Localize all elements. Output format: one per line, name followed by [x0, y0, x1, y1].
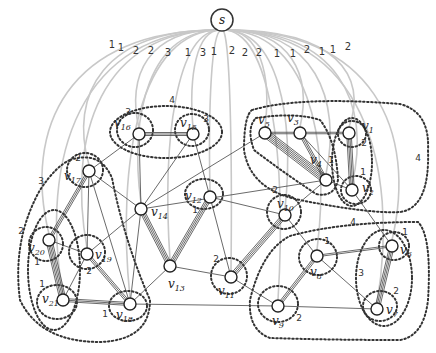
graph-diagram: 11223131222112112 4332141232121112241132… [0, 0, 436, 353]
node-v9[interactable]: v9 [272, 300, 284, 330]
node-circle[interactable] [343, 127, 355, 139]
edge-v1-v2 [347, 133, 350, 190]
node-label: v17 [64, 169, 82, 185]
node-circle[interactable] [320, 174, 332, 186]
node-label: v21 [42, 292, 59, 308]
node-v6[interactable]: v6 [386, 240, 412, 259]
node-circle[interactable] [311, 250, 323, 262]
node-circle[interactable] [81, 248, 93, 260]
arc-weight: 1 [319, 46, 325, 57]
node-v13[interactable]: v13 [164, 260, 185, 293]
region-weight: 2 [86, 266, 92, 276]
edge-v13-v12 [169, 197, 209, 266]
node-label: v13 [168, 277, 185, 293]
graph-edges [46, 130, 394, 309]
edge-v18-v9 [130, 304, 278, 306]
node-label: v3 [287, 111, 299, 127]
edge-v12-v10 [210, 197, 285, 215]
node-v12[interactable]: v12 [185, 189, 216, 205]
arc-weight: 2 [242, 47, 248, 58]
node-label: v6 [400, 243, 412, 259]
arc-weight: 2 [133, 45, 139, 56]
node-circle[interactable] [43, 234, 55, 246]
node-label: v11 [218, 284, 235, 300]
arc-weight: 1 [185, 47, 191, 58]
region-weight: 3 [38, 176, 44, 186]
edge-v10-v11 [232, 215, 286, 277]
region-weight: 4 [415, 153, 421, 163]
edge-v19-v21 [63, 254, 87, 300]
node-label: v12 [185, 189, 202, 205]
edge-v17-v18 [89, 171, 130, 304]
region-weight: 2 [213, 254, 219, 264]
region-weight: 1 [39, 279, 45, 289]
region-weight: 3 [203, 114, 209, 124]
arc-weight: 1 [274, 48, 280, 59]
source-node[interactable]: s [211, 9, 233, 31]
region-weight: 2 [361, 138, 367, 148]
arc-weight: 1 [118, 42, 124, 53]
arc-weight: 2 [256, 47, 262, 58]
arc-weight: 1 [211, 46, 217, 57]
edge-v14-v4 [141, 180, 326, 209]
arc-weight: 2 [304, 44, 310, 55]
region-weight: 1 [402, 227, 408, 237]
node-label: v19 [95, 248, 112, 264]
region-weight: 1 [328, 155, 334, 165]
node-v8[interactable]: v8 [310, 250, 323, 281]
edge-v10-v11 [229, 214, 283, 276]
node-v19[interactable]: v19 [81, 248, 112, 264]
node-circle[interactable] [164, 260, 176, 272]
edge-v13-v12 [168, 196, 208, 265]
region-weight: 3 [125, 107, 131, 117]
region-weight: 4 [169, 95, 175, 105]
edge-v6-v7 [379, 247, 394, 310]
node-circle[interactable] [204, 191, 216, 203]
arc-weight: 2 [229, 45, 235, 56]
edge-v13-v11 [170, 266, 231, 277]
edge-v17-v19 [87, 171, 89, 254]
edge-v2-v6 [352, 190, 392, 246]
edge-v1-v2 [350, 133, 353, 190]
edge-v14-v18 [130, 209, 141, 304]
node-circle[interactable] [371, 303, 383, 315]
region-weight: 1 [102, 309, 108, 319]
region-weight: 1 [192, 205, 198, 215]
node-v7[interactable]: v7 [371, 303, 399, 319]
node-circle[interactable] [135, 203, 147, 215]
region-weight: 2 [272, 185, 278, 195]
edge-v1-v2 [348, 133, 351, 190]
region-weight: 4 [350, 217, 356, 227]
contraction-regions [18, 101, 429, 342]
region-weight: 3 [358, 268, 364, 278]
edge-v10-v11 [233, 216, 287, 278]
edge-v6-v7 [376, 246, 391, 309]
node-label: v2 [362, 181, 374, 197]
arc-weight: 1 [109, 39, 115, 50]
node-circle[interactable] [225, 271, 237, 283]
node-circle[interactable] [386, 240, 398, 252]
arc-weight: 2 [345, 41, 351, 52]
region-weight: 1 [324, 236, 330, 246]
node-circle[interactable] [294, 127, 306, 139]
node-circle[interactable] [124, 298, 136, 310]
node-label: v1 [362, 119, 374, 135]
source-node-label: s [219, 13, 225, 27]
node-circle[interactable] [83, 165, 95, 177]
node-circle[interactable] [133, 128, 145, 140]
arc-weight: 1 [330, 44, 336, 55]
region-weight: 1 [34, 257, 40, 267]
edge-v17-v14 [89, 171, 141, 209]
region-weight: 2 [75, 153, 81, 163]
edge-v20-v21 [49, 240, 63, 300]
node-circle[interactable] [346, 184, 358, 196]
edge-v8-v7 [317, 256, 377, 309]
edge-v14-v5 [141, 133, 265, 209]
node-circle[interactable] [272, 300, 284, 312]
node-v17[interactable]: v17 [64, 165, 95, 185]
node-v21[interactable]: v21 [42, 292, 69, 308]
node-v15[interactable]: v15 [180, 116, 199, 140]
region-weight: 2 [296, 313, 302, 323]
region-weight: 1 [360, 167, 366, 177]
edge-v13-v12 [171, 197, 211, 266]
